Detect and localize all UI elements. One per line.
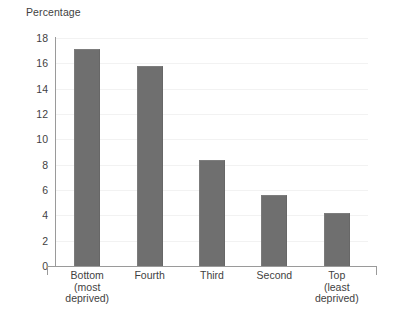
y-axis-tick-labels: 024681012141618 [0, 0, 48, 319]
bar-column [306, 38, 368, 266]
bar[interactable] [324, 213, 350, 266]
y-axis-tick-label: 8 [2, 159, 48, 170]
bar[interactable] [261, 195, 287, 266]
x-axis-tick-label-line: deprived) [294, 293, 380, 305]
x-axis-tick-label-line: Top [294, 270, 380, 282]
bar-column [56, 38, 118, 266]
y-axis-tick-label: 6 [2, 185, 48, 196]
y-axis-tick-label: 4 [2, 210, 48, 221]
bar-chart: Percentage 024681012141618 Bottom(mostde… [0, 0, 396, 319]
plot-area [56, 38, 368, 266]
y-axis-tick-label: 10 [2, 134, 48, 145]
x-axis-tick-label: Top(leastdeprived) [294, 270, 380, 305]
y-axis-tick-label: 14 [2, 83, 48, 94]
y-axis-tick-label: 16 [2, 58, 48, 69]
bar-column [119, 38, 181, 266]
bar-column [181, 38, 243, 266]
y-axis-tick-label: 12 [2, 109, 48, 120]
bar[interactable] [74, 49, 100, 266]
bar-column [243, 38, 305, 266]
y-axis-tick-label: 2 [2, 235, 48, 246]
x-axis-tick-labels: Bottom(mostdeprived)FourthThirdSecondTop… [56, 270, 368, 319]
bar[interactable] [137, 66, 163, 266]
x-axis-tick-label-line: deprived) [44, 293, 130, 305]
x-axis-line [47, 266, 377, 267]
y-axis-tick-label: 0 [2, 261, 48, 272]
y-axis-tick-label: 18 [2, 33, 48, 44]
bar[interactable] [199, 160, 225, 266]
